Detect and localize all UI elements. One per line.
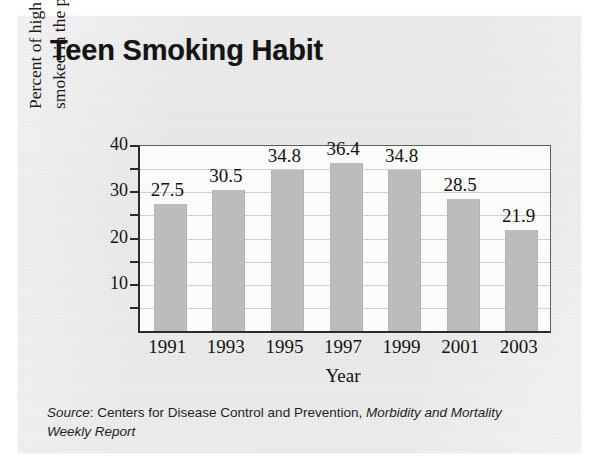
x-axis-tick-label: 1991 [137, 336, 197, 358]
y-axis-title-line-1: Percent of high school students who [25, 0, 46, 109]
bar-value-label: 34.8 [254, 145, 314, 167]
y-axis-tick [130, 145, 138, 147]
bar [212, 190, 245, 331]
bar [505, 230, 538, 331]
bar-value-label: 34.8 [372, 145, 432, 167]
x-axis-tick-label: 2001 [430, 336, 490, 358]
source-agency: Centers for Disease Control and Preventi… [97, 405, 366, 420]
y-axis-tick [130, 307, 138, 309]
y-axis-tick-label: 30 [110, 180, 128, 201]
y-axis-tick-labels: 40302010 [96, 145, 128, 330]
bar-value-label: 30.5 [196, 165, 256, 187]
y-axis-tick [130, 168, 138, 170]
y-axis-tick [130, 214, 138, 216]
bar-value-label: 21.9 [489, 205, 549, 227]
scanned-chart-page: Teen Smoking Habit Percent of high schoo… [0, 0, 599, 475]
y-axis-tick [130, 284, 138, 286]
bar-value-label: 28.5 [430, 174, 490, 196]
y-axis-tick [130, 261, 138, 263]
x-axis-title: Year [138, 365, 548, 387]
x-axis-tick-label: 1997 [313, 336, 373, 358]
x-axis-tick-label: 1999 [372, 336, 432, 358]
source-note: Source: Centers for Disease Control and … [47, 403, 547, 441]
x-axis-tick-label: 1995 [254, 336, 314, 358]
bar [388, 170, 421, 331]
y-axis-tick-label: 40 [110, 134, 128, 155]
y-axis-title-line-2: smoked in the preceding 30 days [49, 0, 70, 109]
chart-title: Teen Smoking Habit [50, 34, 323, 67]
bar-value-label: 27.5 [137, 179, 197, 201]
x-axis-tick-label: 1993 [196, 336, 256, 358]
bar [447, 199, 480, 331]
bar [271, 170, 304, 331]
y-axis-tick-label: 20 [110, 227, 128, 248]
y-axis-tick [130, 238, 138, 240]
bar [154, 204, 187, 331]
source-label: Source [47, 405, 90, 420]
y-axis-tick-label: 10 [110, 273, 128, 294]
x-axis-tick-label: 2003 [489, 336, 549, 358]
bar-value-label: 36.4 [313, 138, 373, 160]
bar [330, 163, 363, 331]
